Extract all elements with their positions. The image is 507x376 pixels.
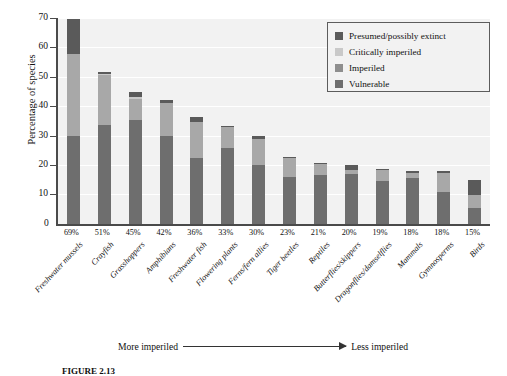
imperiled-gradient-annotation: More imperiled Less imperiled bbox=[118, 339, 408, 353]
bar-grasshoppers[interactable] bbox=[129, 92, 142, 224]
x-category-label: Crayfish bbox=[90, 240, 116, 267]
bar-dragonflies-damselflies[interactable] bbox=[376, 169, 389, 224]
x-category-label: Birds bbox=[468, 240, 487, 259]
bar-segment-vulnerable bbox=[98, 125, 111, 224]
bar-freshwater-mussels[interactable] bbox=[67, 19, 80, 224]
y-tick-10 bbox=[50, 194, 57, 195]
legend-swatch-icon bbox=[335, 80, 343, 88]
legend-label: Critically imperiled bbox=[349, 47, 421, 57]
x-percent-label: 19% bbox=[364, 228, 396, 237]
x-percent-label: 15% bbox=[457, 228, 489, 237]
arrow-line-icon bbox=[183, 346, 346, 347]
legend-label: Imperiled bbox=[349, 63, 385, 73]
bar-reptiles[interactable] bbox=[314, 163, 327, 224]
bar-segment-vulnerable bbox=[67, 136, 80, 224]
legend-item-vulnerable[interactable]: Vulnerable bbox=[335, 76, 489, 92]
bar-amphibians[interactable] bbox=[160, 100, 173, 224]
bar-segment-imperiled bbox=[190, 122, 203, 157]
y-tick-70 bbox=[50, 18, 57, 19]
legend-label: Vulnerable bbox=[349, 79, 389, 89]
bar-segment-imperiled bbox=[314, 164, 327, 176]
x-percent-label: 30% bbox=[241, 228, 273, 237]
y-tick-30 bbox=[50, 136, 57, 137]
bar-segment-imperiled bbox=[129, 99, 142, 120]
legend-item-critically-imperiled[interactable]: Critically imperiled bbox=[335, 44, 489, 60]
bar-butterflies-skippers[interactable] bbox=[345, 165, 358, 224]
bar-segment-vulnerable bbox=[314, 175, 327, 224]
bar-flowering-plants[interactable] bbox=[221, 126, 234, 224]
x-percent-label: 69% bbox=[55, 228, 87, 237]
bar-segment-imperiled bbox=[468, 195, 481, 208]
x-percent-label: 45% bbox=[117, 228, 149, 237]
bar-gymnosperms[interactable] bbox=[437, 171, 450, 224]
bar-segment-presumed-possibly-extinct bbox=[468, 180, 481, 195]
y-tick-50 bbox=[50, 77, 57, 78]
x-category-label: Reptiles bbox=[307, 240, 332, 266]
bar-segment-presumed-possibly-extinct bbox=[67, 19, 80, 54]
legend: Presumed/possibly extinct Critically imp… bbox=[327, 22, 490, 92]
arrow-head-icon bbox=[339, 342, 347, 350]
bar-segment-vulnerable bbox=[129, 120, 142, 224]
less-imperiled-label: Less imperiled bbox=[351, 341, 408, 352]
bar-segment-imperiled bbox=[252, 139, 265, 165]
bar-segment-imperiled bbox=[98, 75, 111, 125]
x-percent-label: 20% bbox=[333, 228, 365, 237]
bar-segment-vulnerable bbox=[406, 178, 419, 224]
x-percent-label: 18% bbox=[395, 228, 427, 237]
legend-swatch-icon bbox=[335, 64, 343, 72]
bar-segment-vulnerable bbox=[468, 208, 481, 224]
bar-mammals[interactable] bbox=[406, 171, 419, 224]
bar-freshwater-fish[interactable] bbox=[190, 117, 203, 224]
bar-segment-vulnerable bbox=[160, 136, 173, 224]
legend-swatch-icon bbox=[335, 48, 343, 56]
bar-segment-vulnerable bbox=[376, 181, 389, 224]
bar-segment-imperiled bbox=[221, 127, 234, 148]
y-axis-title: Percentage of species bbox=[26, 20, 37, 180]
y-axis-zero-label: 0 bbox=[44, 218, 49, 228]
x-percent-label: 21% bbox=[302, 228, 334, 237]
x-percent-label: 51% bbox=[86, 228, 118, 237]
legend-label: Presumed/possibly extinct bbox=[349, 31, 446, 41]
bar-segment-imperiled bbox=[67, 54, 80, 136]
x-axis-line bbox=[56, 224, 490, 226]
bar-crayfish[interactable] bbox=[98, 72, 111, 224]
bar-segment-vulnerable bbox=[252, 165, 265, 224]
bar-segment-imperiled bbox=[160, 103, 173, 135]
x-percent-label: 23% bbox=[271, 228, 303, 237]
bar-segment-imperiled bbox=[283, 158, 296, 177]
bar-segment-vulnerable bbox=[437, 192, 450, 224]
figure-caption: FIGURE 2.13 bbox=[62, 366, 115, 376]
y-tick-20 bbox=[50, 165, 57, 166]
y-tick-40 bbox=[50, 106, 57, 107]
x-category-label: Mammals bbox=[396, 240, 425, 270]
bar-segment-imperiled bbox=[376, 170, 389, 182]
legend-item-presumed-extinct[interactable]: Presumed/possibly extinct bbox=[335, 28, 489, 44]
figure-number: FIGURE 2.13 bbox=[62, 366, 115, 376]
bar-segment-vulnerable bbox=[345, 174, 358, 224]
x-category-label: Freshwater mussels bbox=[34, 240, 85, 294]
x-percent-label: 36% bbox=[179, 228, 211, 237]
y-tick-60 bbox=[50, 47, 57, 48]
y-label-10: 10 bbox=[2, 189, 48, 199]
bar-birds[interactable] bbox=[468, 180, 481, 224]
bar-tiger-beetles[interactable] bbox=[283, 157, 296, 224]
x-percent-label: 18% bbox=[426, 228, 458, 237]
bar-segment-vulnerable bbox=[190, 158, 203, 224]
bar-segment-vulnerable bbox=[283, 177, 296, 224]
more-imperiled-label: More imperiled bbox=[118, 341, 178, 352]
legend-item-imperiled[interactable]: Imperiled bbox=[335, 60, 489, 76]
y-axis-labels: 70 60 50 40 30 20 10 bbox=[0, 0, 48, 240]
bar-segment-vulnerable bbox=[221, 148, 234, 225]
legend-swatch-icon bbox=[335, 32, 343, 40]
x-category-label: Dragonflies/damselflies bbox=[333, 240, 394, 304]
x-percent-label: 42% bbox=[148, 228, 180, 237]
figure-container: 70 60 50 40 30 20 10 Percentage of speci… bbox=[0, 0, 507, 376]
x-percent-label: 33% bbox=[210, 228, 242, 237]
bar-segment-imperiled bbox=[437, 173, 450, 192]
bar-ferns-fern-allies[interactable] bbox=[252, 136, 265, 224]
